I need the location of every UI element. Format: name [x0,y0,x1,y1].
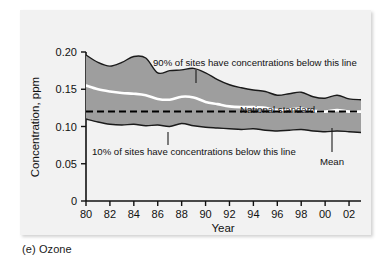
y-axis-tick-label: 0.15 [56,83,77,95]
x-axis-tick-label: 88 [176,208,188,220]
x-axis-tick-label: 02 [343,208,355,220]
ozone-concentration-chart: 0.200.150.100.050 8082848688909294969800… [0,0,391,277]
x-axis-tick-label: 80 [80,208,92,220]
x-axis-tick-label: 94 [247,208,259,220]
y-axis-tick-label: 0.05 [56,158,77,170]
x-axis-tick-label: 86 [152,208,164,220]
figure-caption: (e) Ozone [22,243,72,255]
y-axis-tick-label: 0 [71,195,77,207]
figure-root: 0.200.150.100.050 8082848688909294969800… [0,0,391,277]
y-axis-tick-labels: 0.200.150.100.050 [56,46,77,207]
x-axis-tick-label: 96 [271,208,283,220]
y-axis-tick-label: 0.10 [56,121,77,133]
lower-band-annotation-label: 10% of sites have concentrations below t… [92,146,296,157]
x-axis-tick-label: 90 [199,208,211,220]
x-axis-title: Year [211,222,234,234]
national-standard-annotation-label: National standard [240,104,315,115]
y-axis-title: Concentration, ppm [29,77,41,177]
x-axis-tick-label: 92 [223,208,235,220]
x-axis-tick-labels: 808284868890929496980002 [80,208,355,220]
x-axis-tick-label: 84 [128,208,140,220]
x-axis-tick-label: 98 [295,208,307,220]
x-axis-tick-label: 82 [104,208,116,220]
y-axis-tick-label: 0.20 [56,46,77,58]
upper-band-annotation-label: 90% of sites have concentrations below t… [153,57,357,68]
x-axis-tick-label: 00 [319,208,331,220]
mean-annotation-label: Mean [320,156,344,167]
